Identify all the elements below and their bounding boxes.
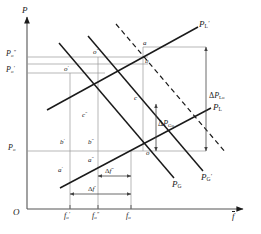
point-label-a-prime: a′ <box>58 167 63 174</box>
point-label-o-dprime: o″ <box>93 49 99 56</box>
curve-label-PG: PG <box>172 180 182 190</box>
x-tick-fo: fo <box>126 212 131 221</box>
annotation-delta-f-prime: Δf′ <box>88 186 96 193</box>
diagram-canvas: P f O Po″ Po′ Po fo′ fo″ fo PL′ PL PG PG… <box>0 0 261 234</box>
y-tick-Po-dprime: Po″ <box>6 50 16 59</box>
curve-PL <box>60 108 211 188</box>
point-label-o: o <box>146 150 150 157</box>
point-label-b-dprime: b″ <box>88 139 94 146</box>
origin-label: O <box>13 208 20 217</box>
point-label-c-dprime: c″ <box>82 112 87 119</box>
curve-label-PL: PL <box>213 103 222 113</box>
axis-y-label: P <box>22 6 28 15</box>
curve-label-PG-prime: PG′ <box>201 173 212 183</box>
x-tick-fo-prime: fo′ <box>64 212 70 221</box>
annotation-delta-f-dprime: Δf″ <box>105 168 114 175</box>
y-tick-Po-prime: Po′ <box>6 66 15 75</box>
point-label-a: a <box>143 40 147 47</box>
annotation-delta-P-Go: ΔPGo <box>158 120 174 129</box>
axis-ticks <box>70 205 131 209</box>
point-label-a-dprime: a″ <box>88 157 94 164</box>
x-tick-fo-dprime: fo″ <box>92 212 99 221</box>
axis-x-label-text: f <box>232 211 235 221</box>
axis-x-label: f <box>232 211 235 221</box>
point-label-b: b <box>145 58 149 65</box>
curve-PL-prime <box>47 27 198 110</box>
point-label-c: c <box>134 95 137 102</box>
guide-lines-horizontal <box>27 47 206 151</box>
point-label-b-prime: b′ <box>60 139 65 146</box>
point-label-o-prime: o′ <box>64 66 69 73</box>
y-tick-Po: Po <box>8 144 15 153</box>
annotation-delta-P-Lo: ΔPLo <box>209 92 225 101</box>
curve-label-PL-prime: PL′ <box>199 20 209 30</box>
diagram-svg <box>0 0 261 234</box>
